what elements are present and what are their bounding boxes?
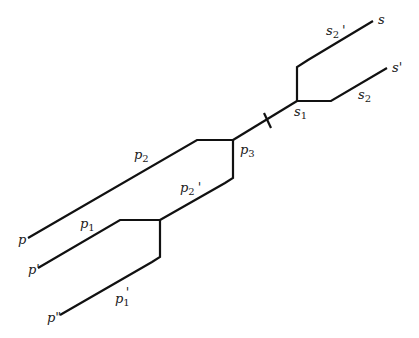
diagram-canvas: s s' s2' s2 s1 p3 p2 p2' p1 p1' p p' p"	[0, 0, 419, 338]
label-p3: p3	[240, 143, 255, 159]
label-p-double-prime: p"	[47, 311, 61, 324]
edge-s2	[297, 68, 387, 101]
label-s: s	[378, 13, 385, 26]
label-p2: p2	[134, 148, 149, 164]
label-s2-sub: 2	[365, 93, 371, 104]
label-s1: s1	[294, 105, 307, 121]
label-p1: p1	[80, 217, 95, 233]
label-s1-sub: 1	[301, 110, 307, 121]
label-s1-base: s	[294, 104, 301, 119]
label-s2-base: s	[358, 87, 365, 102]
label-s2-prime-base: s	[326, 23, 333, 38]
label-p2-prime: p2'	[180, 181, 201, 197]
edge-p3-s1	[233, 101, 297, 140]
label-p2-prime-mark: '	[198, 180, 202, 195]
label-s2-prime-mark: '	[342, 23, 346, 38]
label-s2: s2	[358, 88, 371, 104]
label-s-prime: s'	[392, 61, 402, 74]
edge-p2	[28, 140, 233, 238]
edge-p2-prime	[160, 140, 233, 220]
label-p1-prime-mark: '	[126, 285, 130, 300]
label-s2-prime: s2'	[326, 24, 346, 40]
label-p3-sub: 3	[248, 148, 254, 159]
label-p2-sub: 2	[142, 153, 148, 164]
diagram-lines	[0, 0, 419, 338]
label-p1-prime: p1'	[115, 286, 129, 308]
edge-p1	[38, 220, 160, 268]
edge-p1-prime	[60, 220, 160, 315]
label-p-prime: p'	[28, 263, 40, 276]
label-p1-sub: 1	[88, 222, 94, 233]
label-s2-prime-sub: 2	[333, 29, 339, 40]
label-p2-prime-sub: 2	[188, 186, 194, 197]
label-p: p	[18, 233, 26, 246]
